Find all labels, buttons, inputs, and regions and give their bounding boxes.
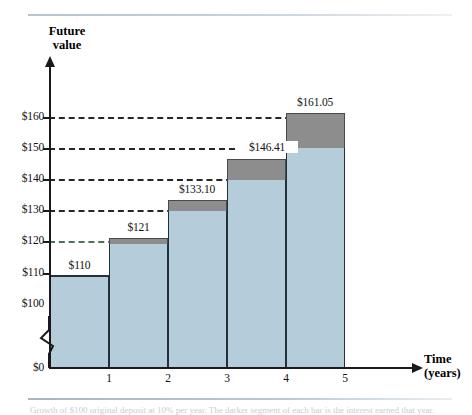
y-tick-120 bbox=[43, 241, 51, 243]
value-label-year-1: $110 bbox=[50, 259, 109, 271]
y-tick-label-130: $130 bbox=[0, 203, 44, 215]
y-tick-label-110: $110 bbox=[0, 266, 44, 278]
bar-top-edge-1 bbox=[50, 275, 109, 277]
x-axis-line bbox=[49, 367, 415, 369]
bar-interest-4 bbox=[227, 159, 286, 180]
bar-interest-3 bbox=[168, 200, 227, 211]
y-tick-130 bbox=[43, 210, 51, 212]
y-tick-label-160: $160 bbox=[0, 110, 44, 122]
bar-principal-2 bbox=[109, 244, 168, 368]
gridline-130 bbox=[49, 210, 183, 212]
y-tick-140 bbox=[43, 179, 51, 181]
bar-principal-4 bbox=[227, 180, 286, 368]
x-tick-label-5: 5 bbox=[333, 372, 357, 384]
x-tick-label-2: 2 bbox=[156, 372, 180, 384]
bar-principal-5 bbox=[286, 148, 345, 368]
y-tick-150 bbox=[43, 148, 51, 150]
y-axis-title-line2: value bbox=[30, 38, 104, 52]
x-tick-label-3: 3 bbox=[215, 372, 239, 384]
chart-plot-area: $110 $121 $133.10 $146.41 $161.05 $160 $… bbox=[0, 0, 472, 415]
value-label-year-2: $121 bbox=[109, 221, 168, 233]
y-tick-label-140: $140 bbox=[0, 172, 44, 184]
x-tick-label-4: 4 bbox=[274, 372, 298, 384]
y-tick-160 bbox=[43, 117, 51, 119]
gridline-160 bbox=[49, 117, 301, 119]
x-tick-label-1: 1 bbox=[97, 372, 121, 384]
bottom-divider-rule bbox=[28, 398, 452, 400]
bar-year-2[interactable] bbox=[109, 238, 168, 368]
y-tick-label-120: $120 bbox=[0, 234, 44, 246]
bar-year-1[interactable] bbox=[50, 275, 109, 368]
x-axis-title-line2: (years) bbox=[424, 366, 472, 380]
x-axis-title-line1: Time bbox=[424, 352, 472, 366]
figure-caption: Growth of $100 original deposit at 10% p… bbox=[30, 405, 450, 415]
gridline-150-left bbox=[49, 148, 235, 150]
y-tick-110 bbox=[43, 273, 51, 275]
y-tick-label-0: $0 bbox=[0, 361, 44, 373]
bar-principal-3 bbox=[168, 211, 227, 368]
figure-container: $110 $121 $133.10 $146.41 $161.05 $160 $… bbox=[0, 0, 472, 415]
x-axis-arrowhead bbox=[412, 363, 423, 373]
x-axis-title: Time (years) bbox=[424, 352, 472, 380]
y-tick-label-100: $100 bbox=[0, 297, 44, 309]
value-label-year-3: $133.10 bbox=[157, 183, 237, 195]
y-tick-label-150: $150 bbox=[0, 141, 44, 153]
bar-principal-1 bbox=[50, 275, 109, 368]
y-axis-arrowhead bbox=[45, 56, 55, 67]
y-axis-title-line1: Future bbox=[30, 24, 104, 38]
value-label-year-5: $161.05 bbox=[275, 96, 355, 108]
value-label-year-4: $146.41 bbox=[236, 141, 298, 153]
y-axis-title: Future value bbox=[30, 24, 104, 52]
bar-year-3[interactable] bbox=[168, 200, 227, 368]
gridline-140 bbox=[49, 179, 242, 181]
